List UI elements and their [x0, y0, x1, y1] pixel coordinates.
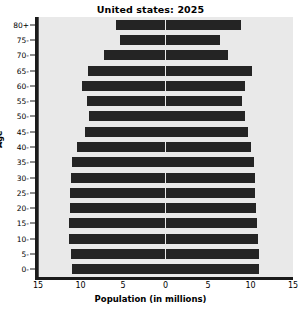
x-axis-title: Population (in millions)	[0, 294, 301, 304]
bar-row	[38, 157, 293, 167]
y-axis-tick-label: 60-	[17, 81, 29, 90]
y-axis-tick-label: 35-	[17, 158, 29, 167]
bar-row	[38, 142, 293, 152]
bar-row	[38, 218, 293, 228]
x-axis-spine	[35, 277, 293, 280]
y-axis-tick-label: 15-	[17, 219, 29, 228]
bar-row	[38, 203, 293, 213]
bar-males	[71, 249, 165, 259]
bar-females	[166, 20, 242, 30]
y-axis-tick-label: 55-	[17, 97, 29, 106]
bar-males	[120, 35, 165, 45]
y-axis-tick-label: 70-	[17, 51, 29, 60]
bar-females	[166, 127, 248, 137]
bar-females	[166, 203, 256, 213]
bar-row	[38, 234, 293, 244]
y-axis-tick-label: 65-	[17, 66, 29, 75]
y-axis-tick-label: 50-	[17, 112, 29, 121]
bar-row	[38, 264, 293, 274]
bar-males	[116, 20, 165, 30]
bar-males	[69, 234, 165, 244]
y-axis-tick-label: 75-	[17, 35, 29, 44]
bar-males	[69, 218, 165, 228]
x-axis-tick-label: 10	[245, 281, 255, 290]
bar-row	[38, 96, 293, 106]
y-axis-tick-label: 0-	[22, 265, 29, 274]
bar-row	[38, 111, 293, 121]
bar-females	[166, 142, 251, 152]
y-axis-tick-label: 40-	[17, 143, 29, 152]
bar-males	[89, 111, 166, 121]
y-axis-tick-label: 5-	[22, 250, 29, 259]
bar-females	[166, 264, 260, 274]
x-axis-tick-label: 5	[205, 281, 210, 290]
bar-males	[87, 96, 165, 106]
bar-row	[38, 20, 293, 30]
bar-males	[77, 142, 165, 152]
bar-row	[38, 188, 293, 198]
y-axis-tick-label: 45-	[17, 127, 29, 136]
bar-females	[166, 35, 220, 45]
bar-males	[88, 66, 165, 76]
bar-females	[166, 111, 245, 121]
y-axis-labels: 0-5-10-15-20-25-30-35-40-45-50-55-60-65-…	[0, 17, 35, 277]
y-axis-tick-label: 80+	[13, 20, 29, 29]
bar-females	[166, 50, 228, 60]
y-axis-tick-label: 20-	[17, 204, 29, 213]
bar-females	[166, 249, 260, 259]
bar-row	[38, 81, 293, 91]
bar-females	[166, 188, 255, 198]
bar-females	[166, 66, 253, 76]
bar-males	[70, 203, 165, 213]
bar-row	[38, 249, 293, 259]
plot-area: Males Females	[38, 17, 293, 277]
bar-row	[38, 173, 293, 183]
bar-males	[72, 157, 166, 167]
bar-females	[166, 96, 243, 106]
y-axis-tick-label: 10-	[17, 234, 29, 243]
bar-males	[82, 81, 165, 91]
bar-males	[104, 50, 165, 60]
x-axis-labels: 15105051015	[38, 281, 293, 295]
bar-row	[38, 127, 293, 137]
chart-title: United states: 2025	[0, 4, 301, 15]
bar-females	[166, 218, 258, 228]
y-axis-tick-label: 30-	[17, 173, 29, 182]
bar-females	[166, 234, 259, 244]
bar-row	[38, 35, 293, 45]
x-axis-tick-label: 15	[288, 281, 298, 290]
x-axis-tick-label: 15	[33, 281, 43, 290]
bar-row	[38, 66, 293, 76]
x-axis-tick-label: 0	[163, 281, 168, 290]
bar-females	[166, 157, 254, 167]
bar-males	[72, 264, 166, 274]
x-axis-tick-label: 5	[120, 281, 125, 290]
bar-row	[38, 50, 293, 60]
bar-group	[38, 17, 293, 277]
y-axis-tick-label: 25-	[17, 188, 29, 197]
bar-males	[85, 127, 166, 137]
bar-females	[166, 81, 245, 91]
bar-males	[71, 173, 165, 183]
bar-males	[70, 188, 165, 198]
bar-females	[166, 173, 255, 183]
x-axis-tick-label: 10	[75, 281, 85, 290]
population-pyramid-chart: United states: 2025 Age 0-5-10-15-20-25-…	[0, 0, 301, 311]
